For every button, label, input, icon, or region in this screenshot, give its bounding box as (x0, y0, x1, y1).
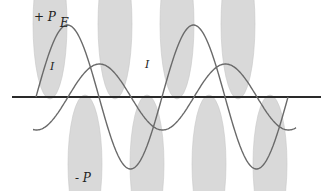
power-lobe-negative (253, 95, 287, 191)
label-minus-p: - P (75, 171, 92, 185)
label-e: E (59, 16, 69, 30)
label-i-middle: I (144, 58, 150, 71)
label-plus-p: + P (34, 10, 57, 24)
power-lobe-positive (221, 0, 255, 99)
power-lobes (33, 0, 287, 191)
power-lobe-negative (192, 95, 226, 191)
ac-power-diagram: + P E I I - P (0, 0, 333, 191)
label-i-left: I (49, 60, 55, 73)
power-lobe-positive (98, 0, 132, 99)
